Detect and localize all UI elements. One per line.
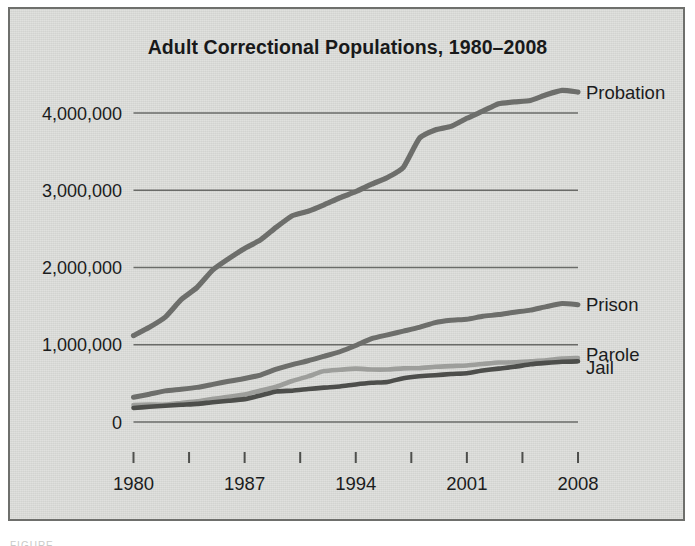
x-axis-tick-marks: [134, 452, 579, 463]
y-axis-tick-labels: 01,000,0002,000,0003,000,0004,000,000: [42, 104, 122, 433]
series-line-probation: [134, 90, 579, 335]
y-axis-tick-label: 0: [112, 413, 122, 433]
x-axis-tick-label: 2008: [557, 473, 598, 494]
gridlines-group: [134, 113, 579, 422]
y-axis-tick-label: 3,000,000: [42, 181, 122, 201]
x-axis-tick-label: 1980: [113, 473, 154, 494]
data-series-group: [134, 90, 579, 408]
y-axis-tick-label: 1,000,000: [42, 335, 122, 355]
series-label-probation: Probation: [586, 82, 665, 103]
series-labels-group: ProbationPrisonParoleJail: [586, 82, 665, 379]
caption-sliver: FIGURE: [10, 538, 54, 546]
x-axis-tick-label: 1987: [224, 473, 265, 494]
x-axis-tick-label: 1994: [335, 473, 376, 494]
y-axis-tick-label: 4,000,000: [42, 104, 122, 124]
y-axis-tick-label: 2,000,000: [42, 258, 122, 278]
series-label-prison: Prison: [586, 294, 638, 315]
line-chart-plot: 01,000,0002,000,0003,000,0004,000,000 19…: [0, 0, 695, 546]
series-label-jail: Jail: [586, 357, 614, 378]
x-axis-tick-labels: 19801987199420012008: [113, 473, 599, 494]
x-axis-tick-label: 2001: [446, 473, 487, 494]
